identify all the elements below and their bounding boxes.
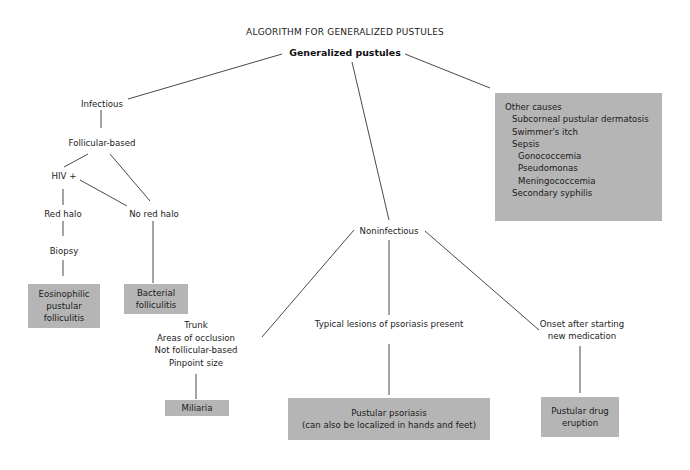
other-cause-item: Subcorneal pustular dermatosis: [505, 113, 649, 125]
flowchart: ALGORITHM FOR GENERALIZED PUSTULES Gener…: [0, 0, 690, 470]
outcome-line: Pustular drug: [551, 405, 609, 417]
criteria-line: Not follicular-based: [148, 344, 244, 357]
other-cause-item: Secondary syphilis: [505, 187, 592, 199]
node-hiv-positive: HIV +: [44, 170, 84, 182]
other-causes-box: Other causes Subcorneal pustular dermato…: [495, 93, 662, 221]
outcome-line: Pustular psoriasis: [351, 407, 426, 419]
outcome-line: Bacterial: [137, 287, 175, 299]
outcome-line: pustular: [46, 300, 81, 312]
other-cause-subitem: Meningococcemia: [505, 175, 595, 187]
node-no-red-halo: No red halo: [120, 208, 188, 220]
outcome-line: (can also be localized in hands and feet…: [302, 419, 476, 431]
criteria-line: Trunk: [148, 319, 244, 332]
outcome-line: folliculitis: [136, 299, 177, 311]
other-causes-heading: Other causes: [505, 101, 562, 113]
other-cause-subitem: Pseudomonas: [505, 162, 578, 174]
diagram-title: ALGORITHM FOR GENERALIZED PUSTULES: [240, 27, 450, 37]
outcome-bacterial-folliculitis: Bacterial folliculitis: [124, 284, 188, 314]
node-psoriasis-criteria: Typical lesions of psoriasis present: [300, 318, 478, 330]
node-miliaria-criteria: Trunk Areas of occlusion Not follicular-…: [148, 319, 244, 369]
criteria-line: Pinpoint size: [148, 357, 244, 370]
outcome-pustular-psoriasis: Pustular psoriasis (can also be localize…: [288, 398, 490, 440]
criteria-line: Areas of occlusion: [148, 332, 244, 345]
other-cause-subitem: Gonococcemia: [505, 150, 581, 162]
outcome-line: eruption: [562, 417, 598, 429]
root-node: Generalized pustules: [285, 47, 405, 58]
node-noninfectious: Noninfectious: [349, 225, 429, 237]
outcome-line: folliculitis: [44, 312, 85, 324]
outcome-line: Miliaria: [181, 402, 212, 414]
criteria-line: new medication: [532, 330, 632, 342]
node-biopsy: Biopsy: [38, 245, 90, 257]
criteria-line: Onset after starting: [532, 318, 632, 330]
other-cause-item: Sepsis: [505, 138, 540, 150]
outcome-pustular-drug-eruption: Pustular drug eruption: [541, 397, 619, 437]
outcome-eosinophilic-folliculitis: Eosinophilic pustular folliculitis: [28, 284, 100, 328]
node-follicular-based: Follicular-based: [60, 137, 144, 149]
node-infectious: Infectious: [70, 98, 134, 110]
outcome-miliaria: Miliaria: [165, 400, 229, 416]
other-cause-item: Swimmer's itch: [505, 126, 578, 138]
node-red-halo: Red halo: [33, 208, 93, 220]
node-drug-criteria: Onset after starting new medication: [532, 318, 632, 342]
outcome-line: Eosinophilic: [38, 288, 89, 300]
